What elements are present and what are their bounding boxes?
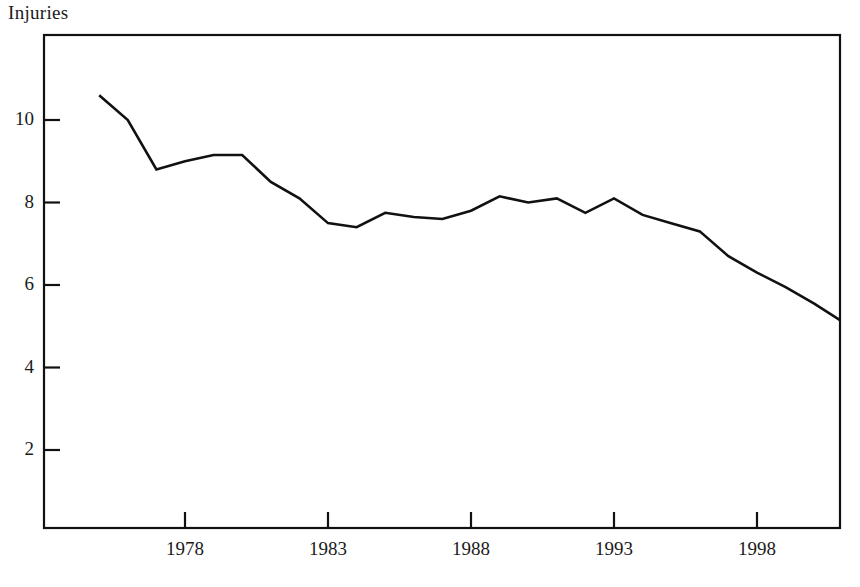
chart-page: Injuries 246810 19781983198819931998 [0,0,860,587]
x-axis-tick-marks [185,512,757,528]
y-tick-label: 10 [6,108,34,130]
plot-frame [44,35,840,528]
y-axis-tick-marks [44,120,60,450]
series-line-injuries [99,95,840,320]
y-tick-label: 2 [6,438,34,460]
x-tick-label: 1983 [293,538,363,560]
x-tick-label: 1978 [150,538,220,560]
y-tick-label: 4 [6,356,34,378]
axes-frame-rect [44,35,840,528]
x-tick-label: 1988 [436,538,506,560]
y-tick-label: 8 [6,191,34,213]
x-tick-label: 1998 [722,538,792,560]
x-tick-label: 1993 [579,538,649,560]
y-tick-label: 6 [6,273,34,295]
line-chart-plot [0,0,860,587]
